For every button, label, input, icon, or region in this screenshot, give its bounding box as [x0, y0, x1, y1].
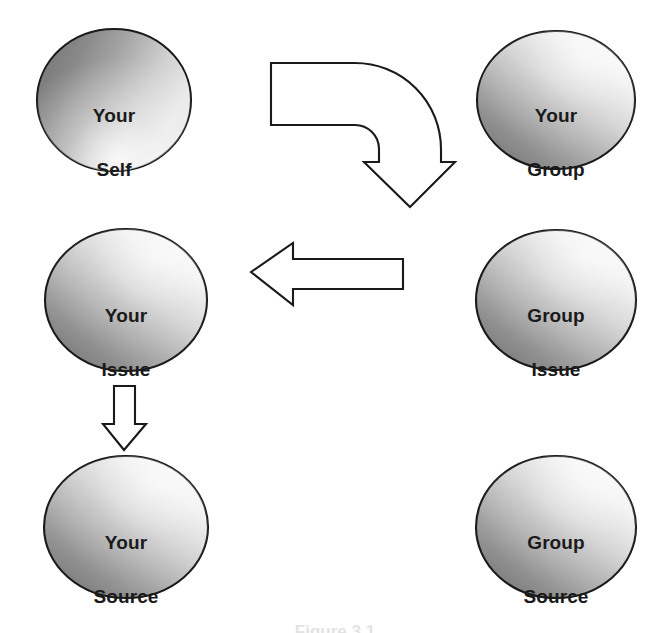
bent-arrow-right-down-icon: [271, 63, 455, 207]
ellipse-highlight: [476, 456, 636, 598]
diagram-canvas: [0, 0, 670, 633]
ellipse-highlight: [45, 229, 207, 371]
arrow-left-icon: [251, 243, 403, 305]
arrow-your-issue-to-your-source[interactable]: [103, 386, 146, 450]
node-your-issue[interactable]: [45, 229, 207, 371]
node-your-self[interactable]: [37, 29, 191, 171]
arrow-group-issue-to-your-issue[interactable]: [251, 243, 403, 305]
ellipse-highlight: [477, 31, 635, 169]
arrow-self-to-group[interactable]: [271, 63, 455, 207]
node-group-source[interactable]: [476, 456, 636, 598]
ellipse-highlight: [44, 456, 208, 598]
arrow-down-icon: [103, 386, 146, 450]
figure-caption: Figure 3.1: [0, 622, 670, 633]
node-your-source[interactable]: [44, 456, 208, 598]
node-your-group[interactable]: [477, 31, 635, 169]
node-group-issue[interactable]: [476, 230, 636, 370]
ellipse-highlight: [476, 230, 636, 370]
ellipse-highlight: [37, 29, 191, 171]
